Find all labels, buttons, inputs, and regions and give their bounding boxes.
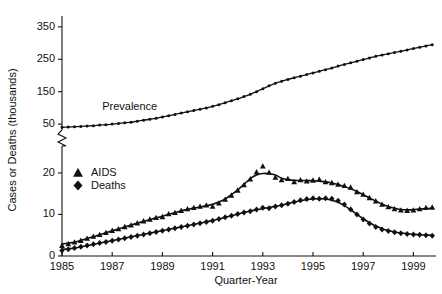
series-markers-deaths [59,195,435,253]
data-point-dot [130,121,133,124]
data-point-dot [418,46,421,49]
data-point-diamond [185,223,190,229]
x-axis-title: Quarter-Year [214,274,278,286]
data-point-diamond [285,201,290,207]
data-point-dot [186,110,189,113]
data-point-diamond [160,228,165,234]
series-prevalence [61,43,434,129]
data-point-diamond [298,197,303,203]
data-point-dot [148,118,151,121]
data-point-dot [61,126,64,129]
data-point-dot [92,124,95,127]
data-point-triangle [285,176,291,181]
data-point-diamond [135,233,140,239]
data-point-dot [312,71,315,74]
data-point-diamond [317,196,322,202]
x-tick-label-1991: 1991 [200,260,224,272]
data-point-diamond [91,241,96,247]
data-point-dot [387,52,390,55]
data-point-dot [86,125,89,128]
data-point-diamond [66,246,71,252]
data-point-dot [236,97,239,100]
data-point-dot [406,48,409,51]
aids-prevalence-line-chart: 5015025035001020 19851987198919911993199… [0,0,442,294]
data-point-diamond [141,231,146,237]
legend-marker-diamond-icon [74,180,83,190]
data-point-diamond [204,219,209,225]
data-point-dot [79,125,82,128]
y-tick-label-350: 350 [37,20,55,32]
data-point-dot [330,67,333,70]
data-point-diamond [191,221,196,227]
data-point-dot [67,126,70,129]
data-point-dot [337,65,340,68]
legend-label-aids: AIDS [91,166,117,178]
data-point-diamond [430,233,435,239]
data-point-dot [324,68,327,71]
legend-marker-triangle-icon [73,168,83,177]
y-tick-label-50: 50 [43,117,55,129]
x-axis: 19851987198919911993199519971999 [50,252,436,272]
data-point-dot [349,61,352,64]
y-axis-break-squiggle [58,130,66,146]
data-point-diamond [304,196,309,202]
data-point-dot [217,103,220,106]
data-point-diamond [417,232,422,238]
data-point-dot [399,50,402,53]
data-point-triangle [260,163,266,168]
data-point-triangle [429,204,435,209]
data-point-diamond [166,226,171,232]
data-point-dot [299,75,302,78]
data-point-triangle [298,177,304,182]
data-point-diamond [291,199,296,205]
data-point-dot [167,114,170,117]
data-point-diamond [84,243,89,249]
data-point-dot [343,63,346,66]
data-point-dot [205,106,208,109]
data-point-diamond [266,205,271,211]
x-tick-label-1985: 1985 [50,260,74,272]
data-point-dot [362,58,365,61]
data-point-dot [230,99,233,102]
x-tick-label-1993: 1993 [251,260,275,272]
data-point-dot [104,123,107,126]
data-point-triangle [266,169,272,174]
data-point-dot [431,43,434,46]
data-point-dot [274,82,277,85]
data-series-group [59,43,435,253]
data-point-diamond [122,235,127,241]
data-point-diamond [392,229,397,235]
data-point-dot [142,119,145,122]
data-point-dot [111,123,114,126]
data-point-dot [261,87,264,90]
data-point-dot [73,125,76,128]
chart-figure: 5015025035001020 19851987198919911993199… [0,0,442,294]
data-point-dot [255,90,258,93]
data-point-diamond [128,234,133,240]
data-point-dot [424,44,427,47]
data-point-triangle [316,176,322,181]
data-point-dot [199,108,202,111]
data-point-dot [374,55,377,58]
x-tick-label-1995: 1995 [301,260,325,272]
data-point-diamond [235,211,240,217]
data-point-diamond [103,239,108,245]
data-point-diamond [404,231,409,237]
data-point-dot [242,95,245,98]
data-point-diamond [229,213,234,219]
y-tick-label-250: 250 [37,52,55,64]
data-point-diamond [398,230,403,236]
data-point-diamond [386,228,391,234]
data-point-dot [412,47,415,50]
data-point-diamond [273,204,278,210]
y-tick-label-10: 10 [43,207,55,219]
chart-annotations: Prevalence [102,100,157,112]
data-point-diamond [248,208,253,214]
data-point-diamond [116,236,121,242]
data-point-diamond [147,230,152,236]
annotation-prevalence: Prevalence [102,100,157,112]
x-tick-label-1987: 1987 [100,260,124,272]
data-point-diamond [260,205,265,211]
y-tick-label-150: 150 [37,85,55,97]
data-point-diamond [97,240,102,246]
